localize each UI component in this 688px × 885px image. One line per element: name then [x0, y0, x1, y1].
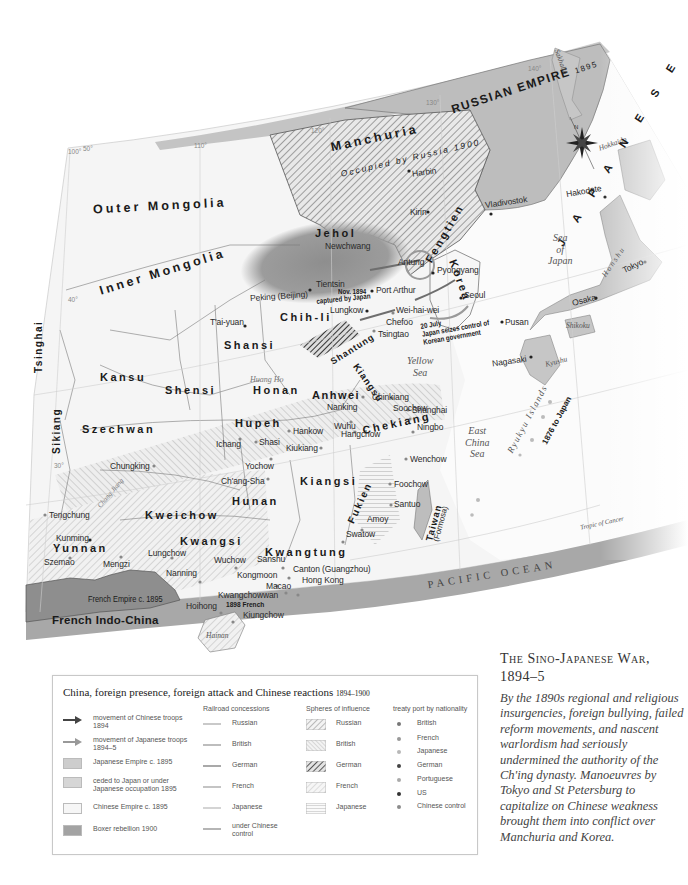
- legend-item: Japanese: [393, 747, 478, 761]
- region-shensi: Shensi: [165, 385, 216, 396]
- city-wei-hai-wei: Wei-hai-wei: [396, 306, 439, 315]
- legend-item: Russian: [203, 719, 293, 740]
- swatch-boxer-rebellion: [63, 825, 82, 836]
- legend-heading: treaty port by nationality: [393, 705, 478, 712]
- swatch-chinese-empire: [63, 803, 82, 814]
- region-shansi: Shansi: [224, 340, 275, 351]
- legend-item: German: [203, 761, 293, 782]
- region-sikiang: Sikiang: [52, 408, 62, 454]
- sphere-russian-swatch: [306, 719, 326, 730]
- sea-of-japan-label: Sea of Japan: [548, 232, 572, 267]
- city-hong-kong: Hong Kong: [302, 576, 344, 585]
- legend-label: French: [417, 734, 439, 742]
- legend-item: Japanese Empire c. 1895: [63, 758, 213, 777]
- legend-label: Chinese Empire c. 1895: [93, 803, 168, 811]
- port-us-dot-icon: [397, 792, 401, 796]
- railroad-german-line: [203, 765, 221, 767]
- city-kwangchowwan: Kwangchowwan: [218, 591, 278, 600]
- river-huang-ho: Huang Ho: [250, 376, 284, 384]
- legend-item: Portuguese: [393, 775, 478, 789]
- city-santuo: Santuo: [394, 500, 420, 509]
- graticule-label: 40°: [68, 297, 78, 304]
- legend-label: US: [417, 789, 427, 797]
- swatch-japanese-empire: [63, 758, 82, 769]
- region-french-indochina: French Indo-China: [52, 615, 159, 627]
- city-yochow: Yochow: [245, 462, 274, 471]
- map-legend: China, foreign presence, foreign attack …: [52, 675, 478, 855]
- region-hupeh: Hupeh: [235, 418, 282, 429]
- sea-of-japan-line: Japan: [548, 255, 572, 267]
- legend-label: Japanese Empire c. 1895: [93, 758, 172, 766]
- region-kwangsi: Kwangsi: [180, 536, 243, 547]
- city-swatow: Swatow: [346, 530, 375, 539]
- city-pyongyang: Pyongyang: [437, 266, 479, 275]
- legend-title-years: 1894–1900: [336, 689, 370, 698]
- legend-item: British: [306, 740, 396, 761]
- railroad-french-line: [203, 786, 221, 788]
- legend-label: Russian: [232, 719, 257, 727]
- map: 100° 50° 110° 120° 130° 140° 40° 30° Out…: [0, 0, 688, 670]
- city-lungkow: Lungkow: [330, 306, 363, 315]
- city-tai-yuan: T'ai-yuan: [210, 318, 244, 327]
- city-shanghai: Shanghai: [412, 406, 447, 415]
- legend-item: German: [393, 761, 478, 775]
- city-tengchung: Tengchung: [49, 511, 90, 520]
- city-kiukiang: Kiukiang: [286, 444, 318, 453]
- legend-label: German: [232, 761, 257, 769]
- island-hainan: Hainan: [206, 632, 229, 640]
- legend-item: Chinese control: [393, 802, 478, 816]
- legend-item: movement of Chinese troops 1894: [63, 714, 213, 736]
- port-french-dot-icon: [397, 737, 401, 741]
- legend-label: Russian: [336, 719, 361, 727]
- railroad-russian-line: [203, 723, 221, 725]
- city-kunming: Kunming: [56, 534, 89, 543]
- city-amoy: Amoy: [367, 515, 388, 524]
- region-szechwan: Szechwan: [82, 424, 155, 435]
- region-yunnan: Yunnan: [53, 543, 108, 554]
- city-haihong: Hoihong: [186, 602, 217, 611]
- swatch-ceded-to-japan: [63, 777, 82, 788]
- legend-item: French: [306, 782, 396, 803]
- city-seoul: Seoul: [464, 291, 485, 300]
- graticule-label: 50°: [83, 146, 93, 153]
- legend-item: under Chinese control: [203, 822, 293, 844]
- region-kweichow: Kweichow: [145, 510, 219, 521]
- map-caption: The Sino-Japanese War, 1894–5 By the 189…: [500, 650, 685, 845]
- legend-label: British: [232, 740, 251, 748]
- port-japanese-dot-icon: [397, 750, 401, 754]
- railroad-chinese-line: [203, 828, 221, 830]
- legend-label: British: [417, 719, 436, 727]
- graticule-label: 120°: [311, 128, 324, 135]
- legend-item: French: [393, 734, 478, 747]
- legend-label: Portuguese: [417, 775, 453, 783]
- french-1898-note: 1898 French: [226, 601, 264, 609]
- port-german-dot-icon: [397, 764, 401, 768]
- port-portuguese-dot-icon: [397, 778, 401, 782]
- city-mengzi: Mengzi: [103, 560, 130, 569]
- city-port-arthur: Port Arthur: [376, 286, 416, 295]
- legend-col-treaty-ports: treaty port by nationality British Frenc…: [393, 705, 478, 816]
- region-honan: Honan: [253, 385, 300, 396]
- legend-col-railroads: Railroad concessions Russian British Ger…: [203, 705, 293, 844]
- legend-item: Russian: [306, 719, 396, 740]
- legend-item: Chinese Empire c. 1895: [63, 803, 213, 825]
- city-wenchow: Wenchow: [410, 455, 446, 464]
- city-wuchow: Wuchow: [214, 556, 246, 565]
- graticule-label: 30°: [54, 463, 64, 470]
- sphere-german-swatch: [306, 761, 326, 772]
- railroad-japanese-line: [203, 807, 221, 809]
- east-china-sea-label: East China Sea: [465, 425, 489, 460]
- arrow-dark-icon: [63, 716, 82, 724]
- legend-label: movement of Japanese troops 1894–5: [93, 736, 193, 753]
- graticule-label: 130°: [426, 100, 439, 107]
- east-china-sea-line: East: [465, 425, 489, 437]
- legend-label: Chinese control: [417, 802, 466, 810]
- legend-label: German: [336, 761, 361, 769]
- city-shasi: Shasi: [259, 438, 280, 447]
- city-szemao: Szemao: [44, 558, 75, 567]
- city-sanshu: Sanshu: [257, 555, 285, 564]
- city-hangchow: Hangchow: [341, 430, 380, 439]
- legend-label: under Chinese control: [232, 822, 292, 839]
- city-kongmoon: Kongmoon: [237, 571, 277, 580]
- city-chinkiang: Chinkiang: [372, 393, 409, 402]
